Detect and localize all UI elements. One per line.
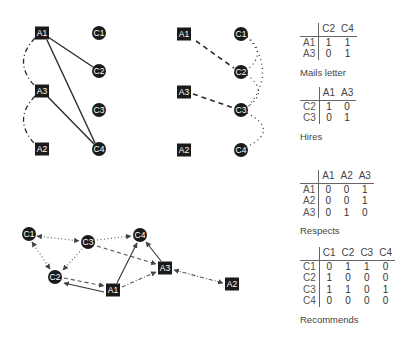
table-hires: A1 A3 C2 1 0 C3 0 1 Hires [300,87,356,142]
table-row: A3 0 1 [300,48,357,60]
edge-A1-C4 [47,40,95,143]
cell: 0 [376,272,395,284]
edge-C1-C2 [247,37,258,70]
svg-text:A3: A3 [37,86,48,96]
svg-text:C2: C2 [94,66,105,76]
edges [24,37,96,144]
svg-text:C4: C4 [135,230,146,240]
table-caption: Hires [300,131,356,142]
node-a3-square-icon: A3 [35,85,49,98]
svg-text:C2: C2 [50,272,61,282]
graph-mails-letter [24,37,96,144]
col-header: C3 [357,247,376,260]
edge-C1-C3 [37,236,79,241]
cell: 0 [337,183,355,195]
svg-text:C2: C2 [236,67,247,77]
cell: 1 [338,36,357,48]
svg-text:C4: C4 [236,145,247,155]
edge-A3-C4 [146,242,161,261]
edge-A1-C2 [196,41,234,68]
corner-cell [300,23,319,36]
node-c4-circle-icon: C4 [234,143,248,157]
table-row: C2 1 0 0 0 [300,272,395,284]
edge-A3-C4 [48,97,94,144]
cell: 1 [337,207,355,219]
adjacency-matrix: C1 C2 C3 C4 C1 0 1 1 0 C2 1 0 0 0 C3 1 [300,247,395,307]
cell: 0 [319,183,338,195]
cell: 0 [357,272,376,284]
cell: 1 [319,272,338,284]
row-header: A3 [300,207,319,219]
row-header: A3 [300,48,319,60]
svg-text:C4: C4 [94,144,105,154]
node-a1-square-icon: A1 [106,284,120,297]
cell: 1 [338,48,357,60]
col-header: A1 [319,87,338,100]
edge-C3-A3 [97,246,156,264]
table-row: C1 0 1 1 0 [300,260,395,272]
table-row: A1 1 1 [300,36,357,48]
svg-text:A2: A2 [179,145,190,155]
row-header: C2 [300,272,319,284]
svg-text:A3: A3 [179,87,190,97]
row-header: A1 [300,183,319,195]
cell: 0 [357,284,376,296]
svg-text:A1: A1 [108,285,119,295]
col-header: C2 [339,247,358,260]
svg-text:A3: A3 [160,263,171,273]
col-header: A3 [338,87,356,100]
edge-A1-A3 [24,38,36,86]
svg-text:C1: C1 [94,28,105,38]
node-c1-circle-icon: C1 [22,227,36,241]
cell: 0 [319,195,338,207]
cell: 0 [339,272,358,284]
row-header: C1 [300,260,319,272]
cell: 0 [319,295,338,307]
table-row: A3 0 1 0 [300,207,374,219]
node-c1-circle-icon: C1 [234,27,248,41]
edges [193,36,264,147]
node-c2-circle-icon: C2 [234,65,248,79]
nodes-layer: A1A3A2C1C2C3C4A1A3A2C1C2C3C4C1C3C4C2A1A3… [22,26,248,297]
cell: 0 [319,112,338,124]
node-c4-circle-icon: C4 [92,142,106,156]
cell: 1 [319,284,338,296]
cell: 0 [376,295,395,307]
cell: 0 [338,100,356,112]
table-row: C4 0 0 0 0 [300,295,395,307]
cell: 0 [319,260,338,272]
row-header: C2 [300,100,319,112]
col-header: C1 [319,247,338,260]
edges [32,236,223,292]
edge-C3-C2 [63,249,82,270]
svg-text:A2: A2 [37,144,48,154]
adjacency-matrix: A1 A3 C2 1 0 C3 0 1 [300,87,356,124]
edge-C3-C4 [247,113,264,147]
table-row: C2 1 0 [300,100,356,112]
cell: 1 [376,284,395,296]
cell: 1 [357,260,376,272]
node-a2-square-icon: A2 [35,143,49,156]
node-a2-square-icon: A2 [177,144,191,157]
node-a1-square-icon: A1 [177,28,191,41]
graph-hires [193,36,264,147]
edge-A1-C4 [117,243,137,283]
cell: 0 [319,48,338,60]
edge-C2-C3 [247,75,259,107]
edge-A3-C3 [193,94,234,108]
cell: 0 [356,207,374,219]
table-recommends: C1 C2 C3 C4 C1 0 1 1 0 C2 1 0 0 0 C3 1 [300,247,395,325]
node-a1-square-icon: A1 [35,27,49,40]
cell: 1 [319,36,338,48]
table-caption: Recommends [300,314,395,325]
edge-C3-C4 [97,236,131,240]
node-c4-circle-icon: C4 [133,228,147,242]
graph-combined [32,236,223,292]
row-header: A2 [300,195,319,207]
row-header: C3 [300,112,319,124]
node-c3-circle-icon: C3 [81,235,95,249]
node-a3-square-icon: A3 [158,262,172,275]
table-caption: Mails letter [300,67,357,78]
svg-text:C3: C3 [83,237,94,247]
node-c3-circle-icon: C3 [92,103,106,117]
